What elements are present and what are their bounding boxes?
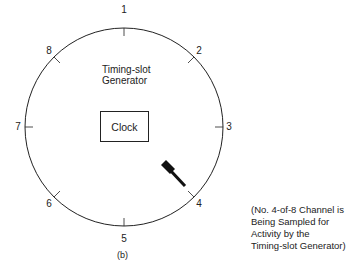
figure-caption: (b) — [117, 250, 128, 261]
channel-3-label: 3 — [224, 121, 234, 132]
channel-4-label: 4 — [194, 198, 204, 209]
channel-5-label: 5 — [119, 233, 129, 244]
generator-title: Timing-slotGenerator — [102, 64, 151, 86]
sampling-pointer — [161, 160, 185, 186]
channel-6-label: 6 — [44, 198, 54, 209]
channel-8-label: 8 — [44, 45, 54, 56]
channel-7-label: 7 — [13, 121, 23, 132]
sampling-note: (No. 4-of-8 Channel is Being Sampled for… — [251, 204, 346, 252]
clock-label: Clock — [111, 121, 137, 133]
clock-box: Clock — [100, 111, 149, 142]
channel-1-label: 1 — [119, 4, 129, 15]
channel-2-label: 2 — [194, 45, 204, 56]
